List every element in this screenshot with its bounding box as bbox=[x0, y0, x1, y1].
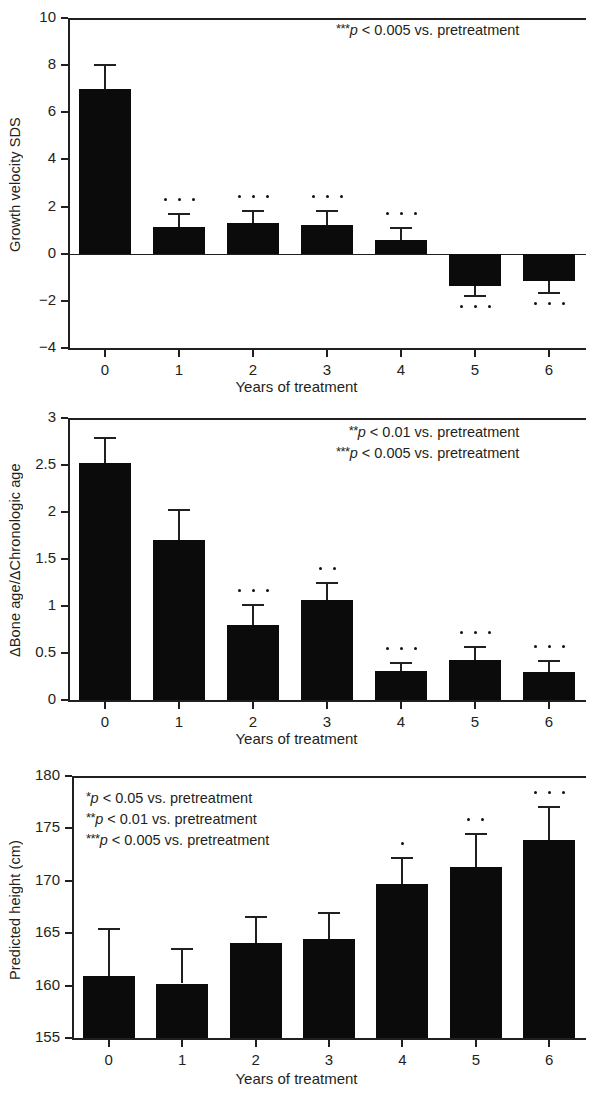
asterisk-icon bbox=[326, 195, 329, 198]
y-axis-tick bbox=[61, 347, 68, 349]
asterisk-icon bbox=[386, 647, 389, 650]
significance-marker bbox=[443, 631, 507, 634]
asterisk-icon bbox=[400, 212, 403, 215]
x-axis-tick-label: 3 bbox=[307, 713, 347, 730]
y-axis-tick-label: 2 bbox=[10, 502, 56, 519]
error-bar-cap bbox=[390, 227, 412, 229]
x-axis-tick bbox=[108, 1040, 110, 1047]
x-axis-tick bbox=[400, 702, 402, 709]
x-axis-tick bbox=[178, 702, 180, 709]
error-bar bbox=[548, 661, 550, 671]
bar bbox=[375, 240, 427, 254]
asterisk-icon bbox=[488, 305, 491, 308]
asterisk-icon bbox=[192, 198, 195, 201]
significance-marker bbox=[369, 647, 433, 650]
y-axis-tick bbox=[61, 605, 68, 607]
asterisk-icon bbox=[548, 791, 551, 794]
asterisk-icon bbox=[488, 631, 491, 634]
error-bar bbox=[474, 647, 476, 659]
y-axis-tick-label: 3 bbox=[10, 408, 56, 425]
significance-marker bbox=[369, 212, 433, 215]
x-axis-tick bbox=[548, 350, 550, 357]
significance-marker bbox=[517, 791, 581, 794]
p-symbol: p bbox=[91, 790, 99, 806]
error-bar-cap bbox=[168, 509, 190, 511]
asterisk-icon bbox=[414, 212, 417, 215]
x-axis-tick bbox=[548, 702, 550, 709]
significance-marker bbox=[444, 818, 508, 821]
significance-note-line: *p < 0.05 vs. pretreatment bbox=[86, 788, 269, 809]
x-axis-tick bbox=[474, 350, 476, 357]
significance-marker bbox=[517, 302, 581, 305]
y-axis-tick-label: 2.5 bbox=[10, 455, 56, 472]
asterisk-icon bbox=[319, 567, 322, 570]
bar bbox=[449, 254, 501, 286]
y-axis-tick bbox=[61, 206, 68, 208]
asterisk-icon bbox=[474, 305, 477, 308]
x-axis-tick bbox=[181, 1040, 183, 1047]
error-bar bbox=[255, 917, 257, 942]
error-bar-cap bbox=[245, 916, 267, 918]
zero-line bbox=[68, 254, 586, 256]
error-bar-cap bbox=[465, 833, 487, 835]
x-axis-tick bbox=[178, 350, 180, 357]
asterisk-prefix: *** bbox=[86, 831, 100, 846]
x-axis-tick-label: 5 bbox=[456, 1051, 496, 1068]
x-axis-tick bbox=[548, 1040, 550, 1047]
bar bbox=[523, 840, 575, 1038]
asterisk-icon bbox=[548, 645, 551, 648]
note-text: < 0.05 vs. pretreatment bbox=[99, 790, 253, 806]
bar bbox=[375, 671, 427, 700]
significance-note-line: ***p < 0.005 vs. pretreatment bbox=[86, 830, 269, 851]
y-axis-tick-label: 10 bbox=[10, 8, 56, 25]
y-axis-tick bbox=[61, 699, 68, 701]
error-bar-cap bbox=[538, 292, 560, 294]
bar bbox=[227, 625, 279, 700]
y-axis-tick bbox=[61, 511, 68, 513]
asterisk-icon bbox=[340, 195, 343, 198]
chart-panel-bone-age-ratio: ΔBone age/ΔChronologic age 32.521.510.50… bbox=[0, 400, 593, 758]
error-bar-cap bbox=[98, 928, 120, 930]
asterisk-icon bbox=[460, 631, 463, 634]
bar bbox=[523, 672, 575, 700]
x-axis-tick-label: 0 bbox=[85, 361, 125, 378]
y-axis-tick-label: 160 bbox=[14, 976, 60, 993]
x-axis-tick-label: 6 bbox=[529, 713, 569, 730]
chart-panel-predicted-height: Predicted height (cm) 180175170165160155… bbox=[0, 758, 593, 1105]
y-axis-tick bbox=[61, 17, 68, 19]
error-bar-cap bbox=[171, 948, 193, 950]
x-axis-tick-label: 2 bbox=[233, 713, 273, 730]
y-axis-tick-label: 8 bbox=[10, 55, 56, 72]
error-bar-cap bbox=[316, 582, 338, 584]
p-symbol: p bbox=[350, 445, 358, 461]
significance-marker bbox=[295, 195, 359, 198]
y-axis-tick bbox=[65, 1037, 72, 1039]
x-axis-tick-label: 4 bbox=[382, 1051, 422, 1068]
significance-note-line: ***p < 0.005 vs. pretreatment bbox=[336, 20, 519, 41]
y-axis-tick-label: 165 bbox=[14, 923, 60, 940]
asterisk-icon bbox=[534, 302, 537, 305]
significance-marker bbox=[221, 195, 285, 198]
y-axis-tick bbox=[65, 775, 72, 777]
bar bbox=[227, 223, 279, 254]
error-bar-cap bbox=[94, 64, 116, 66]
asterisk-prefix: ** bbox=[349, 423, 358, 438]
significance-note: *p < 0.05 vs. pretreatment**p < 0.01 vs.… bbox=[86, 788, 269, 851]
y-axis-tick bbox=[61, 64, 68, 66]
y-axis-tick bbox=[61, 158, 68, 160]
x-axis-tick-label: 3 bbox=[307, 361, 347, 378]
y-axis-tick-label: 170 bbox=[14, 871, 60, 888]
note-text: < 0.005 vs. pretreatment bbox=[358, 445, 520, 461]
x-axis-tick bbox=[400, 350, 402, 357]
asterisk-icon bbox=[238, 195, 241, 198]
y-axis-tick-label: 0.5 bbox=[10, 643, 56, 660]
significance-note-line: **p < 0.01 vs. pretreatment bbox=[86, 809, 269, 830]
asterisk-icon bbox=[401, 842, 404, 845]
plot-top-rule bbox=[68, 418, 586, 420]
error-bar-cap bbox=[464, 646, 486, 648]
y-axis-line bbox=[72, 776, 74, 1038]
y-axis-tick bbox=[61, 652, 68, 654]
x-axis-tick-label: 0 bbox=[89, 1051, 129, 1068]
x-axis-tick-label: 6 bbox=[529, 1051, 569, 1068]
y-axis-tick-label: 180 bbox=[14, 766, 60, 783]
